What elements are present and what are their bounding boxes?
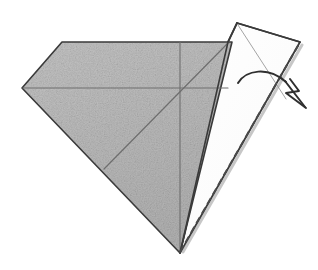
origami-diagram-root: Origami fold step: valley-fold right fla… [0,0,318,270]
origami-figure: Origami fold step: valley-fold right fla… [0,0,318,270]
